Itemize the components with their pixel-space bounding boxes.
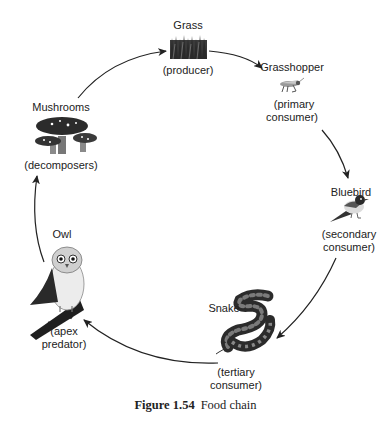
figure-label: Figure 1.54 [134,398,194,412]
node-snake-role-line1: (tertiary [217,366,254,379]
figure-title: Food chain [201,398,257,412]
mushrooms-icon [35,117,97,154]
node-mushrooms-name: Mushrooms [32,101,89,114]
arrow-grass-to-grasshopper [209,51,262,68]
arrow-owl-to-mushrooms [35,176,44,262]
node-owl-role-line2: predator) [42,338,87,351]
node-bluebird-name: Bluebird [331,186,371,199]
node-grass-name: Grass [173,19,202,32]
figure-caption: Figure 1.54Food chain [0,398,391,413]
food-chain-diagram: Grass (producer) Grasshopper (primary co… [0,0,391,430]
node-owl-role-line1: (apex [50,325,78,338]
node-grass-role: (producer) [163,64,214,77]
node-mushrooms-role: (decomposers) [24,159,97,172]
arrow-grasshopper-to-bluebird [322,130,348,178]
node-grasshopper-role-line2: consumer) [266,111,318,124]
node-snake-name: Snake [208,302,239,315]
arrow-mushrooms-to-grass [78,51,166,98]
node-bluebird-role-line2: consumer) [323,241,375,254]
node-owl-name: Owl [53,228,72,241]
node-grasshopper-role-line1: (primary [274,98,314,111]
arrow-snake-to-owl [84,320,218,363]
bluebird-icon [330,195,369,222]
arrow-bluebird-to-snake [277,258,336,338]
grasshopper-icon [280,78,304,92]
grass-icon [170,35,207,59]
node-snake-role-line2: consumer) [210,379,262,392]
node-bluebird-role-line1: (secondary [322,228,376,241]
node-grasshopper-name: Grasshopper [260,61,324,74]
